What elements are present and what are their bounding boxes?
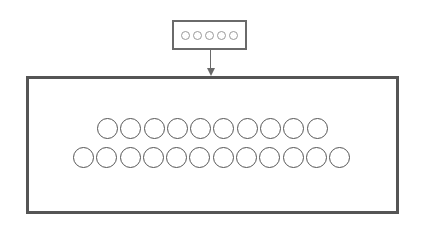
circle-icon — [329, 147, 350, 168]
circle-icon — [213, 118, 234, 139]
circle-icon — [213, 147, 234, 168]
small-circle-icon — [229, 31, 238, 40]
circle-icon — [237, 118, 258, 139]
circle-icon — [120, 147, 141, 168]
source-box — [172, 20, 247, 50]
circle-icon — [283, 147, 304, 168]
arrow-head-icon — [207, 68, 215, 76]
small-circle-icon — [181, 31, 190, 40]
circle-icon — [166, 147, 187, 168]
small-circle-icon — [205, 31, 214, 40]
circle-icon — [190, 118, 211, 139]
circle-icon — [97, 118, 118, 139]
circle-icon — [236, 147, 257, 168]
circle-icon — [259, 147, 280, 168]
circle-icon — [73, 147, 94, 168]
circle-icon — [283, 118, 304, 139]
diagram — [0, 0, 423, 227]
circle-icon — [96, 147, 117, 168]
circle-row-1 — [97, 118, 328, 139]
circle-icon — [167, 118, 188, 139]
arrow-line — [210, 50, 211, 69]
circle-row-2 — [73, 147, 350, 168]
circle-icon — [307, 118, 328, 139]
target-box — [26, 76, 399, 214]
circle-icon — [144, 118, 165, 139]
circle-icon — [189, 147, 210, 168]
circle-icon — [260, 118, 281, 139]
circle-icon — [306, 147, 327, 168]
small-circle-icon — [193, 31, 202, 40]
circle-icon — [120, 118, 141, 139]
circle-icon — [143, 147, 164, 168]
small-circle-icon — [217, 31, 226, 40]
